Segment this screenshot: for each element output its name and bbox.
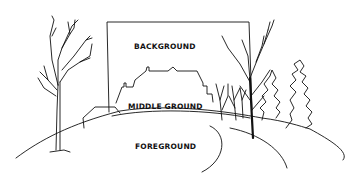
landscape-depth-diagram: BACKGROUND MIDDLE GROUND FOREGROUND xyxy=(0,0,357,187)
label-background: BACKGROUND xyxy=(134,42,196,51)
label-foreground: FOREGROUND xyxy=(135,142,196,151)
label-middle-ground: MIDDLE GROUND xyxy=(128,102,203,111)
conifers xyxy=(260,60,312,128)
left-tree xyxy=(38,16,92,152)
house xyxy=(83,67,213,128)
foreground-path xyxy=(202,126,287,172)
right-tree xyxy=(222,20,274,138)
hill-horizon xyxy=(16,108,344,160)
landscape-illustration xyxy=(0,0,357,187)
